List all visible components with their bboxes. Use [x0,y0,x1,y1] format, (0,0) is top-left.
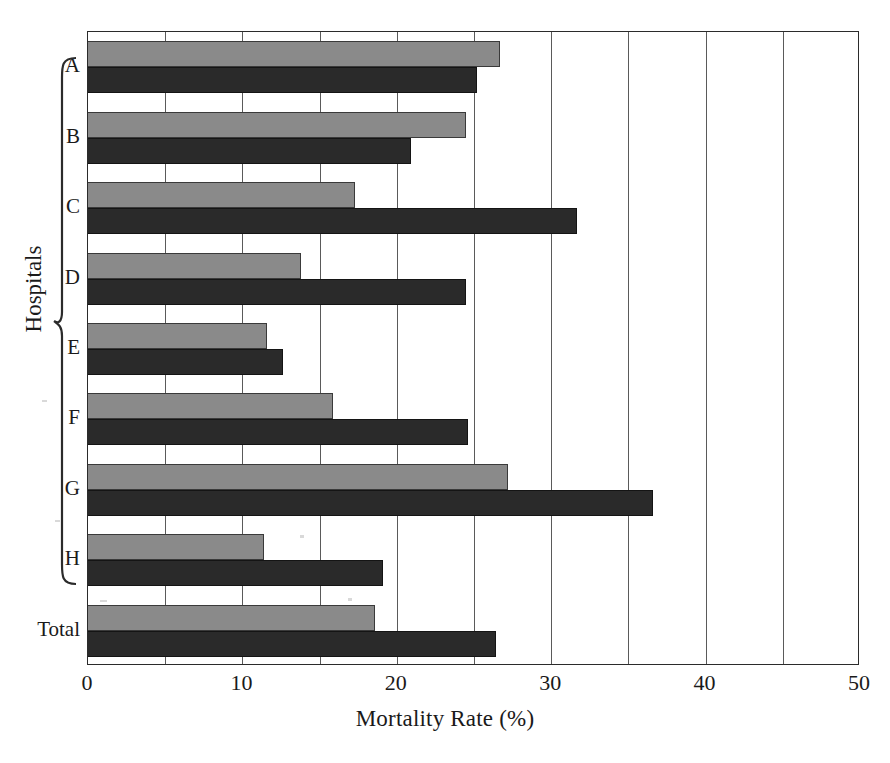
bar-chart-figure: ABCDEFGHTotal Hospitals 01020304050 Mort… [0,0,890,763]
bar-f-light-grey-series [88,393,333,419]
bar-group-e [88,323,858,375]
bar-group-d [88,253,858,305]
x-tick-30: 30 [539,670,561,696]
bar-total-light-grey-series [88,605,375,631]
x-tick-50: 50 [848,670,870,696]
y-axis-group: Hospitals [8,40,88,600]
bar-h-light-grey-series [88,534,264,560]
plot-area [87,31,859,665]
x-tick-20: 20 [385,670,407,696]
bar-group-b [88,112,858,164]
bar-total-dark-series [88,631,496,657]
x-axis-tick-labels: 01020304050 [0,670,890,704]
bar-a-dark-series [88,67,477,93]
bar-g-dark-series [88,490,653,516]
bar-group-total [88,605,858,657]
bar-c-dark-series [88,208,577,234]
bar-e-light-grey-series [88,323,267,349]
bar-g-light-grey-series [88,464,508,490]
bar-b-dark-series [88,138,411,164]
x-axis-title: Mortality Rate (%) [0,706,890,732]
x-tick-0: 0 [82,670,93,696]
bar-group-a [88,41,858,93]
y-axis-title: Hospitals [21,189,47,389]
bar-group-c [88,182,858,234]
bar-d-light-grey-series [88,253,301,279]
bar-c-light-grey-series [88,182,355,208]
bar-group-f [88,393,858,445]
bar-group-g [88,464,858,516]
bar-e-dark-series [88,349,283,375]
bar-b-light-grey-series [88,112,466,138]
x-tick-10: 10 [230,670,252,696]
hospitals-brace-icon [52,56,78,586]
bar-a-light-grey-series [88,41,500,67]
bar-d-dark-series [88,279,466,305]
bar-group-h [88,534,858,586]
x-tick-40: 40 [694,670,716,696]
bar-h-dark-series [88,560,383,586]
y-axis-label-total: Total [18,619,80,640]
bar-f-dark-series [88,419,468,445]
